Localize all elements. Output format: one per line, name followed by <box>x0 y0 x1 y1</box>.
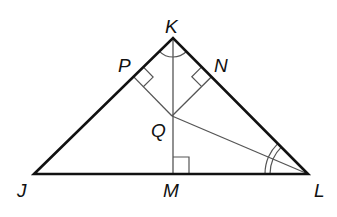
triangle-diagram: K P N Q J M L <box>0 0 337 217</box>
angle-mark-l-upper-1 <box>268 144 277 158</box>
segment-qp <box>134 77 173 116</box>
right-angle-mark-m <box>173 157 189 174</box>
right-angle-mark-p <box>143 67 153 87</box>
label-l: L <box>314 180 325 201</box>
right-angle-mark-n <box>192 67 202 87</box>
label-q: Q <box>151 120 166 141</box>
angle-mark-k-right <box>173 52 186 58</box>
label-n: N <box>214 55 228 76</box>
label-p: P <box>118 55 131 76</box>
angle-mark-l-lower-1 <box>265 157 268 174</box>
label-j: J <box>16 180 27 201</box>
triangle-jkl <box>34 38 308 174</box>
angle-mark-l-upper-2 <box>273 147 281 159</box>
label-m: M <box>163 180 179 201</box>
label-k: K <box>165 16 179 37</box>
segment-ql <box>172 116 308 174</box>
angle-mark-k-left <box>159 51 173 57</box>
segment-qn <box>172 77 212 116</box>
angle-mark-l-lower-2 <box>270 159 273 174</box>
